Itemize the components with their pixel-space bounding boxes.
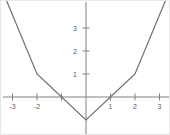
y-tick-label: 3 — [73, 25, 77, 32]
x-tick-label: 1 — [109, 103, 113, 110]
x-tick-label: 2 — [133, 103, 137, 110]
chart-plot-svg — [1, 1, 170, 135]
y-tick-label: 1 — [73, 71, 77, 78]
axes-group — [3, 2, 169, 134]
x-tick-label: -3 — [9, 103, 15, 110]
y-tick-label: 2 — [73, 48, 77, 55]
x-tick-label: 3 — [158, 103, 162, 110]
chart-figure: -3-2123123 — [0, 0, 170, 135]
x-tick-label: -2 — [34, 103, 40, 110]
